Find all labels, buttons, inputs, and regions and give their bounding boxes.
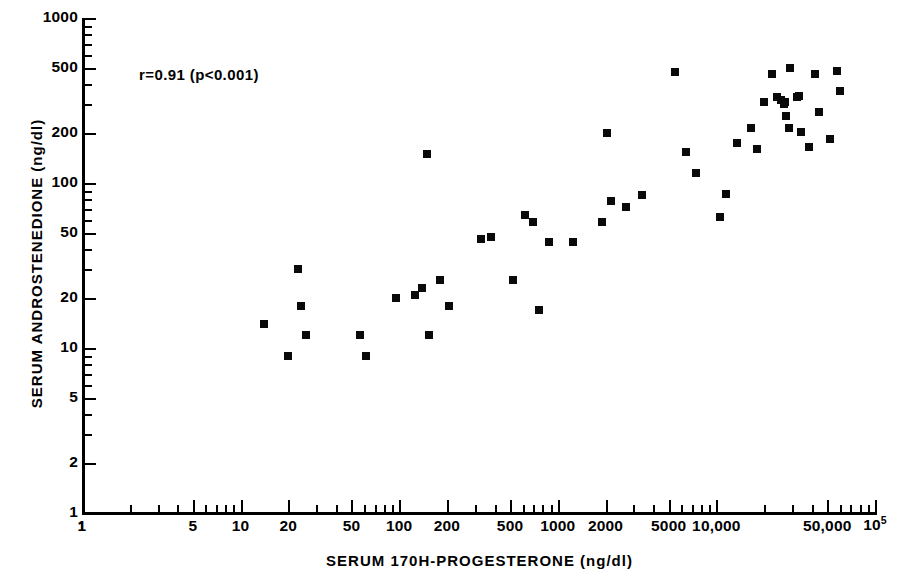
data-point bbox=[284, 352, 292, 360]
x-tick-minor bbox=[130, 505, 132, 512]
x-tick-minor bbox=[316, 505, 318, 512]
x-tick-minor bbox=[633, 505, 635, 512]
data-point bbox=[487, 233, 495, 241]
data-point bbox=[753, 145, 761, 153]
data-point bbox=[716, 213, 724, 221]
x-tick-minor bbox=[792, 505, 794, 512]
y-tick-label-1: 1 bbox=[18, 503, 78, 521]
x-tick-minor bbox=[177, 505, 179, 512]
data-point bbox=[781, 98, 789, 106]
y-tick-major bbox=[85, 233, 96, 235]
data-point bbox=[529, 218, 537, 226]
data-point bbox=[545, 238, 553, 246]
data-point bbox=[722, 190, 730, 198]
data-point bbox=[782, 112, 790, 120]
y-tick-minor bbox=[85, 199, 92, 201]
data-point bbox=[436, 276, 444, 284]
y-axis-title: SERUM ANDROSTENEDIONE (ng/dl) bbox=[28, 49, 45, 479]
x-tick-minor bbox=[764, 505, 766, 512]
x-tick-minor bbox=[653, 505, 655, 512]
x-tick-minor bbox=[542, 505, 544, 512]
data-point bbox=[747, 124, 755, 132]
data-point bbox=[411, 291, 419, 299]
y-tick-minor bbox=[85, 220, 92, 222]
data-point bbox=[786, 64, 794, 72]
x-tick-minor bbox=[495, 505, 497, 512]
x-tick-major bbox=[82, 500, 84, 512]
y-axis-line bbox=[82, 18, 85, 515]
data-point bbox=[622, 203, 630, 211]
x-tick-label-1000: 1000 bbox=[540, 517, 575, 535]
y-tick-minor bbox=[85, 55, 92, 57]
data-point bbox=[692, 169, 700, 177]
data-point bbox=[509, 276, 517, 284]
y-tick-minor bbox=[85, 249, 92, 251]
x-tick-minor bbox=[812, 505, 814, 512]
y-tick-minor bbox=[85, 356, 92, 358]
x-tick-major bbox=[669, 500, 671, 512]
data-point bbox=[423, 150, 431, 158]
y-tick-major bbox=[85, 298, 96, 300]
y-tick-minor bbox=[85, 269, 92, 271]
y-tick-major bbox=[85, 398, 96, 400]
data-point bbox=[418, 284, 426, 292]
x-tick-exponent: 5 bbox=[881, 514, 887, 526]
y-tick-major bbox=[85, 18, 96, 20]
x-tick-minor bbox=[709, 505, 711, 512]
data-point bbox=[598, 218, 606, 226]
x-tick-major bbox=[716, 500, 718, 512]
x-tick-major bbox=[875, 500, 877, 512]
data-point bbox=[477, 235, 485, 243]
y-tick-minor bbox=[85, 364, 92, 366]
data-point bbox=[603, 129, 611, 137]
x-tick-minor bbox=[850, 505, 852, 512]
data-point bbox=[733, 139, 741, 147]
x-tick-label-105: 105 bbox=[863, 514, 887, 534]
data-point bbox=[805, 143, 813, 151]
x-tick-label-50000: 50,000 bbox=[803, 517, 852, 535]
data-point bbox=[768, 70, 776, 78]
y-tick-label-1000: 1000 bbox=[18, 8, 78, 26]
x-axis-line bbox=[82, 512, 877, 515]
y-tick-major bbox=[85, 463, 96, 465]
x-tick-minor bbox=[205, 505, 207, 512]
x-tick-label-20: 20 bbox=[280, 517, 298, 535]
data-point bbox=[535, 306, 543, 314]
y-tick-minor bbox=[85, 191, 92, 193]
data-point bbox=[682, 148, 690, 156]
x-tick-major bbox=[558, 500, 560, 512]
x-tick-label-5000: 5000 bbox=[651, 517, 686, 535]
scatter-plot-figure: 1000500200100502010521 15102050100200500… bbox=[0, 0, 903, 585]
x-tick-minor bbox=[840, 505, 842, 512]
x-tick-minor bbox=[336, 505, 338, 512]
y-tick-major bbox=[85, 348, 96, 350]
data-point bbox=[521, 211, 529, 219]
y-tick-major bbox=[85, 133, 96, 135]
x-tick-minor bbox=[225, 505, 227, 512]
data-point bbox=[811, 70, 819, 78]
x-tick-major bbox=[510, 500, 512, 512]
data-point bbox=[569, 238, 577, 246]
y-tick-minor bbox=[85, 26, 92, 28]
x-tick-minor bbox=[384, 505, 386, 512]
data-point bbox=[356, 331, 364, 339]
x-tick-major bbox=[827, 500, 829, 512]
x-tick-label-10000: 10,000 bbox=[692, 517, 741, 535]
x-tick-minor bbox=[860, 505, 862, 512]
data-point bbox=[302, 331, 310, 339]
x-tick-major bbox=[351, 500, 353, 512]
x-tick-major bbox=[288, 500, 290, 512]
y-tick-minor bbox=[85, 385, 92, 387]
y-tick-minor bbox=[85, 434, 92, 436]
y-tick-minor bbox=[85, 414, 92, 416]
x-tick-minor bbox=[375, 505, 377, 512]
origin-label: 1 bbox=[78, 519, 85, 534]
x-tick-label-100: 100 bbox=[386, 517, 412, 535]
x-tick-minor bbox=[533, 505, 535, 512]
x-tick-minor bbox=[681, 505, 683, 512]
data-point bbox=[294, 265, 302, 273]
data-point bbox=[797, 128, 805, 136]
y-tick-major bbox=[85, 68, 96, 70]
data-point bbox=[445, 302, 453, 310]
x-axis-title: SERUM 170H-PROGESTERONE (ng/dl) bbox=[82, 552, 877, 569]
